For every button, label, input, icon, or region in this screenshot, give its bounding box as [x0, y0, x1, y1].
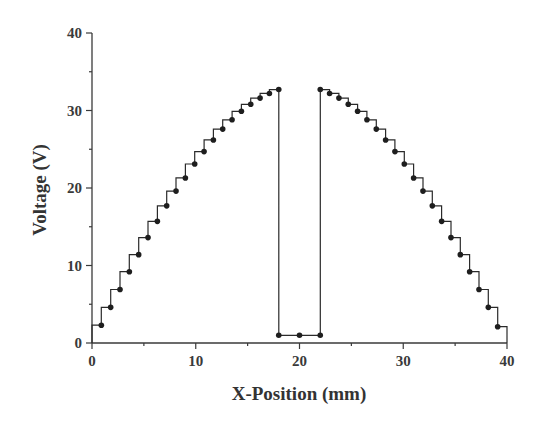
data-point-marker: [392, 149, 398, 155]
data-point-marker: [336, 95, 342, 101]
data-point-marker: [317, 87, 323, 93]
data-point-marker: [164, 203, 170, 209]
data-point-marker: [297, 332, 303, 338]
x-tick-label: 0: [88, 353, 96, 369]
data-point-marker: [99, 322, 105, 328]
data-point-marker: [267, 91, 273, 97]
data-point-marker: [155, 219, 161, 225]
data-point-marker: [373, 126, 379, 132]
x-tick-label: 40: [500, 353, 515, 369]
y-tick-label: 40: [67, 25, 82, 41]
data-point-marker: [364, 117, 370, 123]
data-point-marker: [495, 324, 501, 330]
data-point-marker: [229, 117, 235, 123]
data-point-marker: [448, 235, 454, 241]
data-point-marker: [248, 102, 254, 108]
data-point-marker: [317, 332, 323, 338]
data-point-marker: [173, 188, 179, 194]
x-axis-title: X-Position (mm): [232, 383, 367, 405]
data-point-marker: [401, 161, 407, 167]
data-point-marker: [420, 188, 426, 194]
voltage-chart: 010203040010203040 X-Position (mm) Volta…: [0, 0, 541, 423]
data-point-marker: [220, 126, 226, 132]
x-tick-label: 20: [292, 353, 307, 369]
x-tick-label: 10: [188, 353, 203, 369]
data-point-marker: [117, 287, 123, 293]
data-point-marker: [458, 252, 464, 258]
data-point-marker: [467, 269, 473, 275]
data-point-marker: [127, 269, 133, 275]
data-point-marker: [439, 219, 445, 225]
y-tick-label: 20: [67, 180, 82, 196]
plot-area: [92, 87, 507, 343]
voltage-step-line: [92, 90, 507, 343]
data-point-marker: [211, 137, 217, 143]
y-tick-label: 10: [67, 258, 82, 274]
data-point-marker: [276, 87, 282, 93]
data-point-marker: [145, 235, 151, 241]
data-point-marker: [383, 137, 389, 143]
data-point-marker: [345, 102, 351, 108]
data-point-marker: [411, 175, 417, 181]
data-point-marker: [183, 175, 189, 181]
data-point-marker: [276, 332, 282, 338]
data-point-marker: [327, 91, 333, 97]
x-tick-label: 30: [396, 353, 411, 369]
data-point-marker: [192, 161, 198, 167]
y-tick-label: 0: [75, 335, 83, 351]
axes: 010203040010203040: [67, 25, 515, 369]
data-point-marker: [201, 149, 207, 155]
data-point-marker: [136, 252, 142, 258]
data-point-marker: [486, 305, 492, 311]
data-point-marker: [239, 108, 245, 114]
data-point-marker: [257, 95, 263, 101]
y-axis-title: Voltage (V): [29, 144, 51, 236]
y-tick-label: 30: [67, 103, 82, 119]
data-point-marker: [355, 108, 361, 114]
data-point-marker: [476, 287, 482, 293]
data-point-marker: [108, 305, 114, 311]
data-point-marker: [430, 203, 436, 209]
